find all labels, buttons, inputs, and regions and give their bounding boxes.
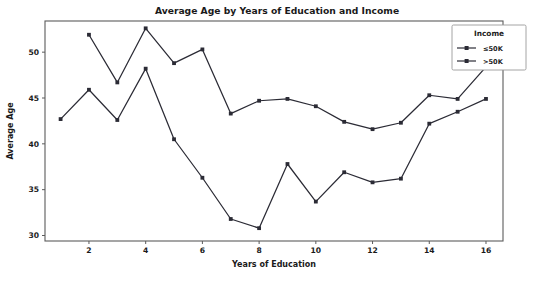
- legend-entry-label-1[interactable]: >50K: [483, 58, 504, 66]
- y-tick-label: 45: [28, 94, 39, 103]
- data-point: [59, 117, 63, 121]
- x-tick-label: 8: [256, 246, 261, 255]
- data-point: [87, 33, 91, 37]
- data-point: [144, 26, 148, 30]
- data-point: [342, 120, 346, 124]
- data-point: [229, 112, 233, 116]
- data-point: [484, 97, 488, 101]
- x-tick-label: 10: [311, 246, 322, 255]
- y-tick-label: 50: [28, 48, 39, 57]
- data-point: [314, 200, 318, 204]
- chart-figure: Average Age by Years of Education and In…: [0, 0, 539, 282]
- data-point: [314, 104, 318, 108]
- data-point: [371, 180, 375, 184]
- data-point: [342, 170, 346, 174]
- data-point: [456, 110, 460, 114]
- x-tick-label: 14: [424, 246, 435, 255]
- y-tick-label: 30: [28, 231, 39, 240]
- data-point: [427, 93, 431, 97]
- x-tick-label: 16: [481, 246, 492, 255]
- data-point: [427, 122, 431, 126]
- data-point: [172, 61, 176, 65]
- legend-entry-label-0[interactable]: ≤50K: [483, 45, 504, 53]
- chart-legend[interactable]: Income≤50K>50K: [452, 25, 526, 70]
- legend-swatch-marker-0: [465, 46, 469, 50]
- y-axis-label: Average Age: [6, 102, 15, 160]
- data-point: [257, 226, 261, 230]
- data-point: [115, 81, 119, 85]
- y-tick-label: 40: [28, 140, 39, 149]
- x-tick-label: 12: [367, 246, 378, 255]
- line-chart: Average Age by Years of Education and In…: [0, 0, 539, 282]
- data-point: [371, 127, 375, 131]
- chart-title: Average Age by Years of Education and In…: [155, 5, 399, 16]
- data-point: [456, 97, 460, 101]
- data-point: [286, 97, 290, 101]
- data-point: [144, 67, 148, 71]
- legend-swatch-marker-1: [465, 59, 469, 63]
- legend-title: Income: [474, 29, 504, 38]
- data-point: [172, 137, 176, 141]
- data-point: [229, 217, 233, 221]
- data-point: [286, 162, 290, 166]
- x-tick-label: 6: [200, 246, 205, 255]
- data-point: [399, 121, 403, 125]
- data-point: [399, 177, 403, 181]
- y-tick-label: 35: [28, 185, 39, 194]
- data-point: [87, 88, 91, 92]
- data-point: [115, 118, 119, 122]
- x-tick-label: 4: [143, 246, 148, 255]
- x-tick-label: 2: [86, 246, 91, 255]
- data-point: [200, 48, 204, 52]
- x-axis-label: Years of Education: [231, 260, 316, 269]
- data-point: [200, 176, 204, 180]
- data-point: [257, 99, 261, 103]
